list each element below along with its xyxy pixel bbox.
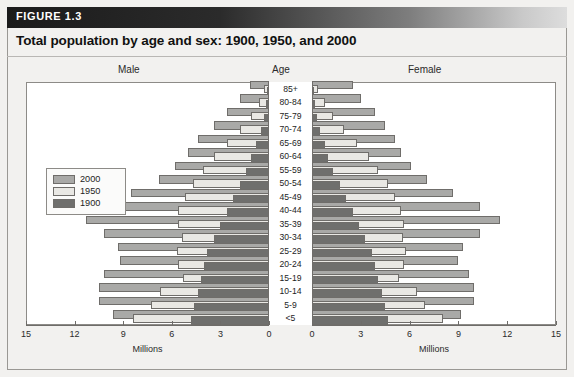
age-label-50-54: 50-54 xyxy=(269,178,312,188)
female-tick-9 xyxy=(458,321,459,325)
age-label-70-74: 70-74 xyxy=(269,124,312,134)
male-tick-15 xyxy=(26,321,27,325)
legend-swatch-1900 xyxy=(53,199,75,208)
age-label-80-84: 80-84 xyxy=(269,97,312,107)
female-tick-3 xyxy=(361,321,362,325)
legend-swatch-2000 xyxy=(53,175,75,184)
age-label-45-49: 45-49 xyxy=(269,192,312,202)
age-label-25-29: 25-29 xyxy=(269,246,312,256)
population-pyramid-chart: 85+80-8475-7970-7465-6960-6455-5950-5445… xyxy=(26,82,556,325)
age-label-35-39: 35-39 xyxy=(269,219,312,229)
age-label-15-19: 15-19 xyxy=(269,273,312,283)
legend-label-1950: 1950 xyxy=(80,186,100,196)
figure-title: Total population by age and sex: 1900, 1… xyxy=(16,33,356,48)
male-tick-label-9: 9 xyxy=(121,329,126,339)
header-divider xyxy=(7,56,567,57)
female-tick-label-12: 12 xyxy=(502,329,512,339)
female-tick-15 xyxy=(556,321,557,325)
age-label-40-44: 40-44 xyxy=(269,205,312,215)
bar-female-1900-<5 xyxy=(312,316,388,325)
figure-number-label: FIGURE 1.3 xyxy=(16,10,82,22)
female-tick-label-15: 15 xyxy=(551,329,561,339)
female-tick-label-9: 9 xyxy=(456,329,461,339)
female-column-caption: Female xyxy=(408,64,441,75)
age-label-60-64: 60-64 xyxy=(269,151,312,161)
age-label-10-14: 10-14 xyxy=(269,286,312,296)
female-tick-label-6: 6 xyxy=(407,329,412,339)
male-tick-label-12: 12 xyxy=(70,329,80,339)
age-label-75-79: 75-79 xyxy=(269,111,312,121)
male-tick-label-3: 3 xyxy=(218,329,223,339)
male-tick-0 xyxy=(269,321,270,325)
legend-label-2000: 2000 xyxy=(80,174,100,184)
chart-legend: 200019501900 xyxy=(46,168,126,215)
male-axis-title: Millions xyxy=(132,344,162,354)
age-label-55-59: 55-59 xyxy=(269,165,312,175)
male-tick-label-0: 0 xyxy=(266,329,271,339)
figure-page: FIGURE 1.3 Total population by age and s… xyxy=(0,0,574,377)
age-label-<5: <5 xyxy=(269,313,312,323)
age-label-65-69: 65-69 xyxy=(269,138,312,148)
male-column-caption: Male xyxy=(118,64,140,75)
male-tick-6 xyxy=(172,321,173,325)
male-tick-label-6: 6 xyxy=(169,329,174,339)
bar-male-1900-<5 xyxy=(191,316,269,325)
age-label-20-24: 20-24 xyxy=(269,259,312,269)
female-tick-12 xyxy=(507,321,508,325)
age-column-caption: Age xyxy=(272,64,290,75)
age-label-30-34: 30-34 xyxy=(269,232,312,242)
male-tick-3 xyxy=(220,321,221,325)
legend-swatch-1950 xyxy=(53,187,75,196)
figure-header-bar xyxy=(7,7,567,28)
female-axis-title: Millions xyxy=(419,344,449,354)
male-tick-9 xyxy=(123,321,124,325)
male-tick-label-15: 15 xyxy=(21,329,31,339)
female-tick-label-3: 3 xyxy=(358,329,363,339)
male-axis-line xyxy=(26,325,269,326)
legend-label-1900: 1900 xyxy=(80,198,100,208)
age-label-85+: 85+ xyxy=(269,84,312,94)
male-tick-12 xyxy=(75,321,76,325)
female-tick-label-0: 0 xyxy=(309,329,314,339)
female-tick-6 xyxy=(410,321,411,325)
age-label-5-9: 5-9 xyxy=(269,300,312,310)
female-tick-0 xyxy=(312,321,313,325)
female-axis-line xyxy=(312,325,556,326)
